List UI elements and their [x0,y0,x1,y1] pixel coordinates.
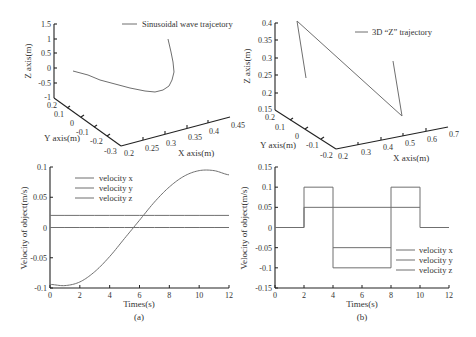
x-tick-label: 0 [273,291,277,300]
z-tick-label: 0.5 [41,49,51,58]
plot-3d-z-trajectory: 0.4 0.35 0.3 0.25 0.2 0.15 Z axis(m) 0.2… [242,19,459,163]
y-axis-label: Velocity of object(m/s) [19,187,29,270]
y-tick-label: -0.1 [306,141,319,150]
x-tick-label: 0.5 [405,139,415,148]
y-axis-label: Y axis(m) [260,140,296,150]
x-axis-label: X axis(m) [393,153,429,163]
y-tick-label: 0.1 [54,110,64,119]
y-tick-label: -0.15 [255,284,272,293]
x-tick-label: 8 [389,291,393,300]
y-ticks: 0.2 0.1 0 -0.1 -0.2 [265,113,333,160]
legend-label: velocity z [419,265,453,275]
legend-label: velocity y [419,255,454,265]
legend-label: velocity x [99,173,134,183]
x-tick-label: 0.7 [449,130,459,139]
z-tick-label: -0.5 [38,79,51,88]
z-tick-label: 0.35 [258,36,272,45]
x-axis-label: Times(s) [346,299,378,309]
y-tick-label: 0.1 [37,163,47,172]
y-tick-label: 0 [70,119,74,128]
z-tick-label: 0.2 [262,89,272,98]
y-tick-label: -0.1 [259,264,272,273]
x-tick-label: 4 [331,291,335,300]
velocity-z-line [304,207,420,227]
z-tick-label: 1.5 [41,20,51,29]
y-tick-label: 0.15 [258,163,272,172]
plot-velocity-a: 0246810120.10.050-0.05-0.1 Velocity of o… [19,163,233,322]
y-tick-label: 0.05 [258,203,272,212]
panel-caption: (b) [357,312,368,322]
x-tick-label: 2 [78,291,82,300]
y-tick-label: 0 [268,224,272,233]
y-axis-label: Velocity of object(m/s) [239,187,249,270]
panel-caption: (a) [134,312,144,322]
x-tick-label: 0.4 [209,127,219,136]
series-group [50,170,229,286]
x-axis-label: Times(s) [123,299,155,309]
x-tick-label: 0.45 [231,121,245,130]
plot-3d-sinusoidal: 1.5 1 0.5 0 -0.5 -1 Z axis(m) 0.2 0.1 0 … [23,19,245,158]
x-tick-label: 0.35 [188,133,202,142]
x-axis-label: X axis(m) [178,148,214,158]
x-tick-label: 2 [302,291,306,300]
y-tick-label: -0.05 [30,254,47,263]
legend: Sinusoidal wave trajcetory [122,19,233,29]
z-tick-label: 0 [47,64,51,73]
legend-label: 3D “Z” trajectory [372,27,433,37]
y-tick-label: -0.1 [34,284,47,293]
sinusoidal-trajectory-line [73,39,174,92]
ticks: 0246810120.150.10.050-0.05-0.1-0.15 [255,163,453,300]
x-tick-label: 4 [108,291,112,300]
x-tick-label: 12 [225,291,233,300]
y-tick-label: 0.05 [33,193,47,202]
y-tick-label: 0.2 [265,113,275,122]
x-tick-label: 0.3 [361,148,371,157]
x-tick-label: 0.2 [124,149,134,158]
y-axis-label: Y axis(m) [44,133,80,143]
x-tick-label: 10 [416,291,424,300]
x-tick-label: 12 [445,291,453,300]
x-tick-label: 0.25 [145,144,159,153]
y-tick-label: -0.05 [255,244,272,253]
z-tick-label: 0.3 [262,54,272,63]
figure: 1.5 1 0.5 0 -0.5 -1 Z axis(m) 0.2 0.1 0 … [0,0,476,337]
y-tick-label: -0.2 [90,137,103,146]
plot-velocity-b: 0246810120.150.10.050-0.05-0.1-0.15 Velo… [239,163,454,322]
z-tick-label: 0.4 [262,19,272,28]
y-tick-label: 0.1 [275,123,285,132]
x-tick-label: 0.4 [383,143,393,152]
y-tick-label: -0.2 [320,151,333,160]
legend: velocity x velocity y velocity z [396,245,454,275]
z-tick-label: 1 [47,35,51,44]
x-tick-label: 0.3 [166,139,176,148]
x-tick-label: 0 [48,291,52,300]
y-tick-label: 0 [43,224,47,233]
z-axis-label: Z axis(m) [23,43,33,78]
legend-label: velocity z [99,193,133,203]
legend-label: velocity y [99,183,134,193]
x-tick-label: 0.2 [338,152,348,161]
y-tick-label: -0.3 [104,147,117,156]
legend-label: velocity x [419,245,454,255]
x-tick-label: 0.6 [427,135,437,144]
x-tick-label: 8 [167,291,171,300]
y-tick-label: 0.1 [262,183,272,192]
x-tick-label: 10 [195,291,203,300]
y-tick-label: 0.2 [47,101,57,110]
z-tick-label: 0.25 [258,71,272,80]
legend: velocity x velocity y velocity z [75,173,134,203]
legend-label: Sinusoidal wave trajcetory [142,19,233,29]
legend: 3D “Z” trajectory [355,27,433,37]
y-ticks: 0.2 0.1 0 -0.1 -0.2 -0.3 [47,101,117,156]
z-axis-label: Z axis(m) [242,48,252,83]
